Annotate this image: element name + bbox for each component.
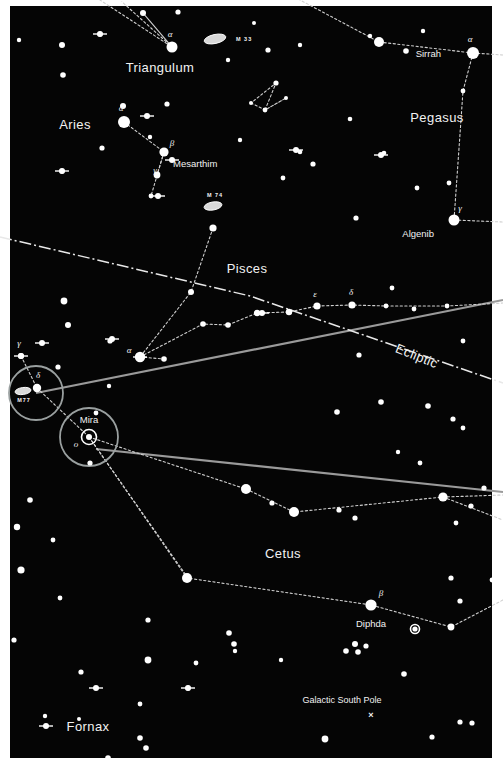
greek-label-sirrah: α: [468, 34, 473, 44]
star-dot: [140, 10, 146, 16]
star-dot: [138, 702, 143, 707]
star-dot: [363, 643, 368, 648]
star-dot: [269, 500, 274, 505]
greek-label-mira: ο: [74, 439, 79, 449]
star-dot: [469, 720, 474, 725]
star-dot: [353, 215, 358, 220]
star-dot: [241, 484, 251, 494]
star-dot: [188, 289, 194, 295]
star-dot: [454, 521, 459, 526]
star-dot: [105, 755, 111, 761]
star-dot: [59, 42, 65, 48]
star-dot: [461, 426, 466, 431]
star-dot: [279, 658, 283, 662]
star-dot: [390, 286, 395, 291]
star-dot: [450, 416, 455, 421]
spike-core: [109, 336, 115, 342]
greek-label-2: γ: [153, 165, 157, 175]
star-dot: [225, 322, 231, 328]
star-dot: [11, 637, 16, 642]
star-dot: [99, 145, 104, 150]
star-dot: [356, 352, 361, 357]
star-dot: [448, 575, 453, 580]
star-chart-root: M 33M 74M77TriangulumAriesPegasusPiscesC…: [0, 0, 503, 769]
star-dot: [167, 42, 178, 53]
star-dot: [336, 507, 341, 512]
star-dot: [273, 80, 278, 85]
star-dot: [231, 641, 237, 647]
constellation-name-cetus: Cetus: [265, 546, 301, 561]
star-dot: [238, 138, 242, 142]
messier-label: M77: [17, 397, 31, 403]
star-dot: [384, 304, 389, 309]
spike-core: [97, 31, 103, 37]
star-dot: [374, 37, 384, 47]
star-dot: [343, 648, 349, 654]
star-dot: [429, 734, 434, 739]
variable-core: [413, 627, 417, 631]
spike-core: [39, 340, 45, 346]
greek-label-algenib: γ: [458, 203, 462, 213]
greek-label-0: α: [168, 29, 173, 39]
star-dot: [457, 598, 462, 603]
star-name-mira: Mira: [80, 414, 99, 425]
greek-label-4: ε: [313, 289, 317, 299]
star-dot: [265, 47, 270, 52]
annotation-galactic-south-pole-label: Galactic South Pole: [302, 695, 381, 705]
constellation-name-fornax: Fornax: [67, 719, 110, 734]
constellation-name-triangulum: Triangulum: [126, 60, 195, 75]
star-name-algenib: Algenib: [402, 228, 434, 239]
star-dot: [200, 321, 206, 327]
star-dot: [145, 617, 150, 622]
star-dot: [490, 578, 495, 583]
star-dot: [421, 29, 425, 33]
spike-core: [59, 168, 65, 174]
star-dot: [289, 507, 299, 517]
star-dot: [284, 96, 288, 100]
star-dot: [27, 497, 33, 503]
star-dot: [33, 384, 41, 392]
star-dot: [461, 89, 466, 94]
spike-core: [43, 723, 49, 729]
star-dot: [145, 657, 152, 664]
sky-canvas: M 33M 74M77TriangulumAriesPegasusPiscesC…: [0, 0, 503, 769]
star-dot: [457, 719, 462, 724]
star-dot: [17, 566, 24, 573]
star-dot: [461, 339, 466, 344]
star-dot: [78, 669, 83, 674]
star-dot: [352, 641, 358, 647]
spike-core: [378, 152, 384, 158]
greek-label-diphda: β: [378, 588, 384, 598]
star-dot: [233, 649, 237, 653]
star-dot: [175, 9, 180, 14]
greek-label-6: γ: [17, 338, 21, 348]
star-dot: [58, 596, 63, 601]
star-dot: [445, 304, 450, 309]
star-name-sirrah: Sirrah: [416, 48, 441, 59]
star-name-diphda: Diphda: [356, 618, 387, 629]
star-dot: [43, 714, 47, 718]
star-dot: [396, 450, 400, 454]
constellation-name-aries: Aries: [59, 117, 91, 132]
star-dot: [348, 301, 355, 308]
star-dot: [17, 38, 21, 42]
star-dot: [226, 58, 230, 62]
star-dot: [209, 224, 216, 231]
star-dot: [334, 409, 340, 415]
star-dot: [107, 384, 111, 388]
star-dot: [164, 101, 169, 106]
spike-core: [18, 353, 24, 359]
spike-core: [93, 685, 99, 691]
variable-core: [86, 434, 92, 440]
star-dot: [182, 573, 192, 583]
star-dot: [447, 181, 452, 186]
star-dot: [161, 356, 167, 362]
star-dot: [481, 485, 486, 490]
star-dot: [468, 503, 473, 508]
star-dot: [310, 161, 315, 166]
galactic-south-pole-marker: ×: [368, 710, 373, 720]
greek-label-3: α: [127, 345, 132, 355]
star-dot: [352, 515, 357, 520]
star-dot: [87, 460, 92, 465]
star-dot: [226, 630, 232, 636]
